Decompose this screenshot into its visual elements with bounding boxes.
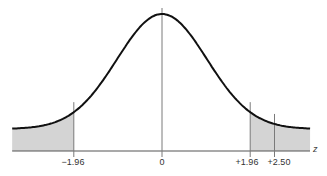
tick-label-neg-1-96: −1.96 — [62, 157, 85, 167]
normal-curve — [12, 14, 310, 129]
tick-label-pos-1-96: +1.96 — [236, 157, 259, 167]
plot-area — [0, 0, 327, 176]
tick-label-pos-2-50: +2.50 — [268, 157, 291, 167]
x-axis-label: z — [313, 144, 318, 154]
tick-label-0: 0 — [159, 157, 164, 167]
normal-distribution-chart: −1.96 0 +1.96 +2.50 z — [0, 0, 327, 176]
